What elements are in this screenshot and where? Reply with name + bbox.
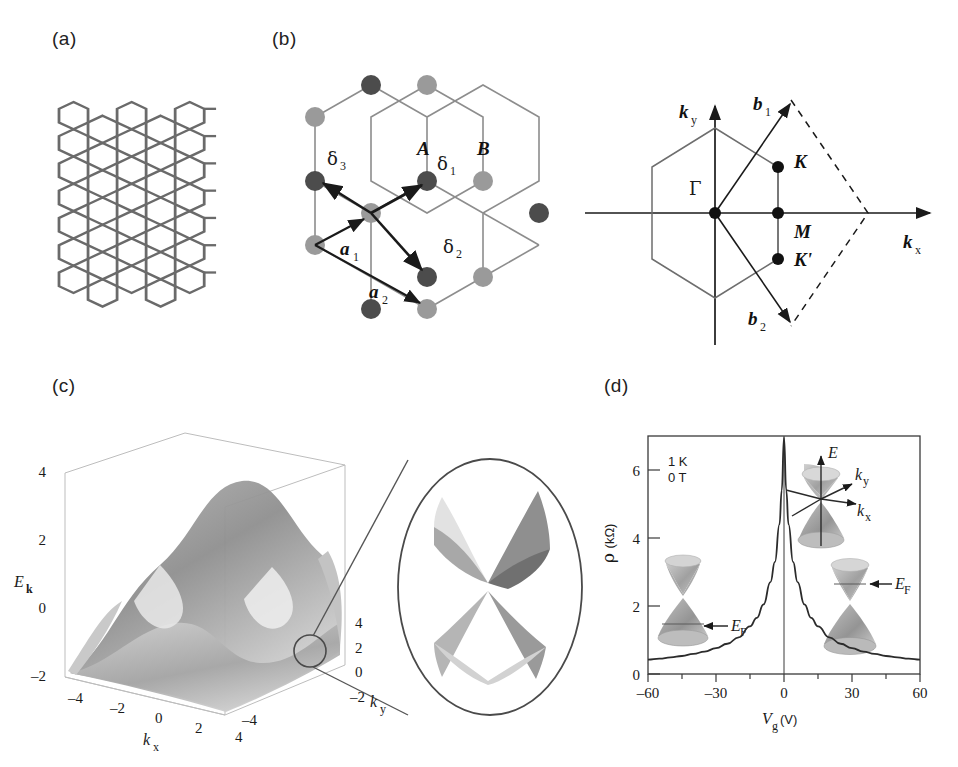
- panel-c-band-structure: 4 2 0 –2 E k –4 –2 0 2 4 k x 4 2 0 –2 –4…: [10, 415, 600, 755]
- panel-b-lattice: A B δ 1 δ 2 δ 3 a 1 a 2: [265, 55, 555, 345]
- b1-sub: 1: [765, 105, 771, 119]
- fermi-sub-right: F: [904, 583, 911, 597]
- delta-2-sub: 2: [456, 247, 462, 261]
- a2-sub: 2: [382, 293, 388, 307]
- kx-tick-4: 4: [235, 729, 243, 745]
- delta-3-label: δ: [327, 148, 338, 169]
- vg-tick-60: 60: [913, 685, 928, 701]
- vg-tick-30: 30: [845, 685, 860, 701]
- delta-2-label: δ: [443, 236, 454, 257]
- a2-label: a: [369, 281, 379, 302]
- kx-tick-2: 2: [195, 720, 203, 736]
- axis-rho-unit: (kΩ): [602, 524, 617, 549]
- band-structure-svg: 4 2 0 –2 E k –4 –2 0 2 4 k x 4 2 0 –2 –4…: [10, 415, 600, 755]
- axis-vg-sub: g: [772, 719, 778, 733]
- y-axis-ticks: [648, 470, 660, 674]
- lattice-hexagons: [59, 102, 216, 307]
- axis-Ek-sub: k: [26, 582, 33, 596]
- panel-c-label: (c): [52, 375, 76, 397]
- axis-kx-sub: x: [915, 243, 921, 257]
- panel-a-lattice: [55, 98, 235, 293]
- axis-ky-label: k: [679, 101, 689, 122]
- e-tick-2: 2: [39, 532, 47, 548]
- point-Kprime-label: K': [793, 249, 812, 270]
- axis-kx-sub-c: x: [153, 740, 159, 754]
- inset-axis-kx: k: [857, 502, 865, 519]
- axis-ky-label-c: k: [370, 693, 378, 710]
- sublattice-label-B: B: [476, 138, 490, 159]
- panel-b-label: (b): [272, 28, 297, 50]
- point-K-label: K: [793, 151, 808, 172]
- vg-tick-0: 0: [780, 685, 788, 701]
- dispersion-surface: [68, 481, 342, 712]
- rho-tick-0: 0: [633, 667, 641, 683]
- inset-axis-ky-sub: y: [863, 474, 869, 488]
- axis-vg-unit: (V): [780, 712, 797, 727]
- panel-d-resistivity: 6 4 2 0 –60 –30 0 30 60 ρ (kΩ) V g (V): [600, 418, 958, 758]
- ky-tick-0: 0: [355, 664, 363, 680]
- axis-rho-label: ρ: [598, 553, 618, 563]
- axis-Ek-label: E: [13, 573, 24, 590]
- lattice-vector-arrows: [315, 219, 420, 303]
- gamma-label: Γ: [689, 178, 702, 199]
- ky-tick-4: 4: [355, 615, 363, 631]
- dirac-cone-inset-left: E F: [658, 555, 747, 646]
- b2-sub: 2: [760, 320, 766, 334]
- rho-tick-6: 6: [633, 463, 641, 479]
- kx-tick-0: 0: [155, 710, 163, 726]
- ky-tick-m2: –2: [349, 689, 365, 705]
- ky-tick-2: 2: [355, 640, 363, 656]
- energy-axis-ticks: 4 2 0 –2: [30, 464, 47, 684]
- a1-label: a: [340, 238, 350, 259]
- inset-axis-kx-sub: x: [865, 510, 871, 524]
- e-tick-4: 4: [39, 464, 47, 480]
- dirac-cone-inset-right: E F: [824, 559, 911, 655]
- sublattice-label-A: A: [416, 138, 430, 159]
- x-axis-ticks: [648, 674, 920, 682]
- inset-axis-ky: k: [855, 466, 863, 483]
- e-tick-0: 0: [39, 600, 47, 616]
- dirac-cone-inset-center: E k y k x: [786, 444, 871, 548]
- lattice-vectors-svg: A B δ 1 δ 2 δ 3 a 1 a 2: [265, 55, 555, 345]
- dirac-cone-zoom-inset: [398, 459, 582, 715]
- b2-label: b: [748, 308, 758, 329]
- inset-axis-E: E: [827, 444, 838, 461]
- delta-3-sub: 3: [340, 159, 346, 173]
- resistivity-plot-svg: 6 4 2 0 –60 –30 0 30 60 ρ (kΩ) V g (V): [600, 418, 958, 758]
- axis-ky-sub: y: [691, 113, 697, 127]
- annotation-temperature: 1 K: [668, 454, 688, 469]
- delta-1-label: δ: [437, 153, 448, 174]
- vg-tick-m60: –60: [636, 685, 660, 701]
- delta-1-sub: 1: [450, 164, 456, 178]
- brillouin-zone-svg: Γ K M K' b 1 b 2 k y k x: [585, 70, 955, 360]
- panel-a-label: (a): [52, 28, 77, 50]
- rho-tick-2: 2: [633, 599, 641, 615]
- rho-tick-4: 4: [633, 531, 641, 547]
- kx-tick-m4: –4: [67, 690, 84, 706]
- point-M-label: M: [793, 221, 812, 242]
- annotation-field: 0 T: [668, 470, 687, 485]
- panel-brillouin-zone: Γ K M K' b 1 b 2 k y k x: [585, 70, 955, 360]
- axis-kx-label-c: k: [143, 731, 151, 748]
- a1-sub: 1: [353, 250, 359, 264]
- ky-tick-m4: –4: [241, 712, 258, 728]
- axis-kx-label: k: [903, 231, 913, 252]
- panel-d-label: (d): [604, 375, 629, 397]
- honeycomb-sheet-svg: [55, 98, 235, 293]
- kx-tick-m2: –2: [109, 700, 125, 716]
- e-tick-m2: –2: [30, 668, 46, 684]
- b1-label: b: [753, 93, 763, 114]
- axis-ky-sub-c: y: [380, 702, 386, 716]
- bz-axes: [585, 106, 930, 345]
- vg-tick-m30: –30: [704, 685, 728, 701]
